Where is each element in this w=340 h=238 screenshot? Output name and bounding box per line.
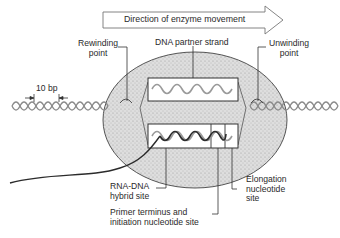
hybrid-site-label: RNA-DNA hybrid site xyxy=(110,182,149,201)
elongation-site-label: Elongation nucleotide site xyxy=(246,175,287,204)
arrow-label: Direction of enzyme movement xyxy=(124,15,245,25)
ten-bp-label: 10 bp xyxy=(36,84,58,94)
rewinding-label: Rewinding point xyxy=(76,39,120,58)
enzyme-body xyxy=(103,52,287,188)
unwinding-label: Unwinding point xyxy=(265,39,313,58)
rewinding-label-line2: point xyxy=(76,49,120,59)
primer-label-line2: initiation nucleotide site xyxy=(110,218,199,228)
primer-site-label: Primer terminus and initiation nucleotid… xyxy=(110,208,199,227)
ten-bp-marker xyxy=(25,94,68,102)
diagram-canvas xyxy=(0,0,340,238)
left-dna-duplex xyxy=(12,102,108,110)
hybrid-label-line2: hybrid site xyxy=(110,192,149,202)
unwinding-label-line2: point xyxy=(265,49,313,59)
partner-strand-label: DNA partner strand xyxy=(155,38,229,48)
elongation-label-line3: site xyxy=(246,194,287,204)
